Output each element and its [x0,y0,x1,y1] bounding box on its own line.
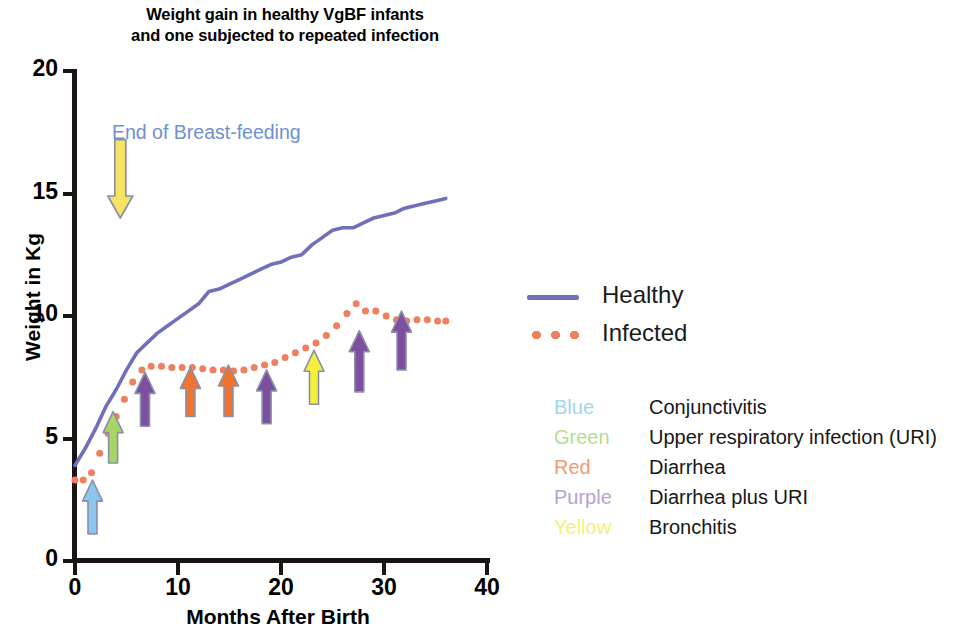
data-point [282,354,289,361]
data-point [442,317,449,324]
data-point [333,322,340,329]
data-point [313,339,320,346]
data-point [362,308,369,315]
color-key-color-word: Green [554,426,642,449]
color-key-description: Bronchitis [649,516,737,539]
color-key-color-word: Red [554,456,642,479]
data-point [168,364,175,371]
legend-label: Healthy [602,281,683,309]
color-key-color-word: Blue [554,396,642,419]
color-key-color-word: Yellow [554,516,642,539]
color-key-description: Diarrhea plus URI [649,486,808,509]
data-point [323,332,330,339]
data-point [372,308,379,315]
color-key-description: Upper respiratory infection (URI) [649,426,937,449]
data-point [129,379,136,386]
color-key-row: RedDiarrhea [554,456,964,486]
data-point [96,450,103,457]
data-point [424,316,431,323]
color-key-row: PurpleDiarrhea plus URI [554,486,964,516]
data-point [292,349,299,356]
series-dots-infected [72,300,450,483]
event-arrow-green [103,412,123,463]
data-point [343,310,350,317]
event-arrow-red [180,367,200,416]
legend-swatch-dotted [527,331,579,339]
data-point [199,365,206,372]
series-line-healthy [75,198,446,465]
event-arrow-yellow [304,350,324,404]
data-point [271,359,278,366]
color-key-description: Diarrhea [649,456,726,479]
data-point [148,363,155,370]
legend-item-infected: Infected [527,321,957,359]
color-key-row: GreenUpper respiratory infection (URI) [554,426,964,456]
data-point [72,477,79,484]
data-point [121,396,128,403]
data-point [434,317,441,324]
event-arrow-purple [135,372,155,426]
legend-item-healthy: Healthy [527,283,957,321]
event-arrow-blue [83,480,103,534]
data-point [414,316,421,323]
data-point [210,366,217,373]
data-point [88,469,95,476]
chart-figure: Weight gain in healthy VgBF infants and … [0,0,965,639]
data-point [261,362,268,369]
color-key-description: Conjunctivitis [649,396,767,419]
event-arrow-purple [257,370,277,424]
data-point [158,363,165,370]
data-point [302,344,309,351]
data-point [353,300,360,307]
color-key-row: YellowBronchitis [554,516,964,546]
color-key-color-word: Purple [554,486,642,509]
data-point [240,366,247,373]
color-key-table: BlueConjunctivitisGreenUpper respiratory… [554,396,964,546]
legend-label: Infected [602,319,687,347]
data-point [80,477,87,484]
data-point [251,364,258,371]
annotation-arrow-end-of-breastfeeding [108,140,133,218]
color-key-row: BlueConjunctivitis [554,396,964,426]
event-arrow-purple [349,331,369,392]
data-point [383,313,390,320]
data-point [179,364,186,371]
series-legend: HealthyInfected [527,283,957,359]
legend-swatch-solid [527,295,579,300]
